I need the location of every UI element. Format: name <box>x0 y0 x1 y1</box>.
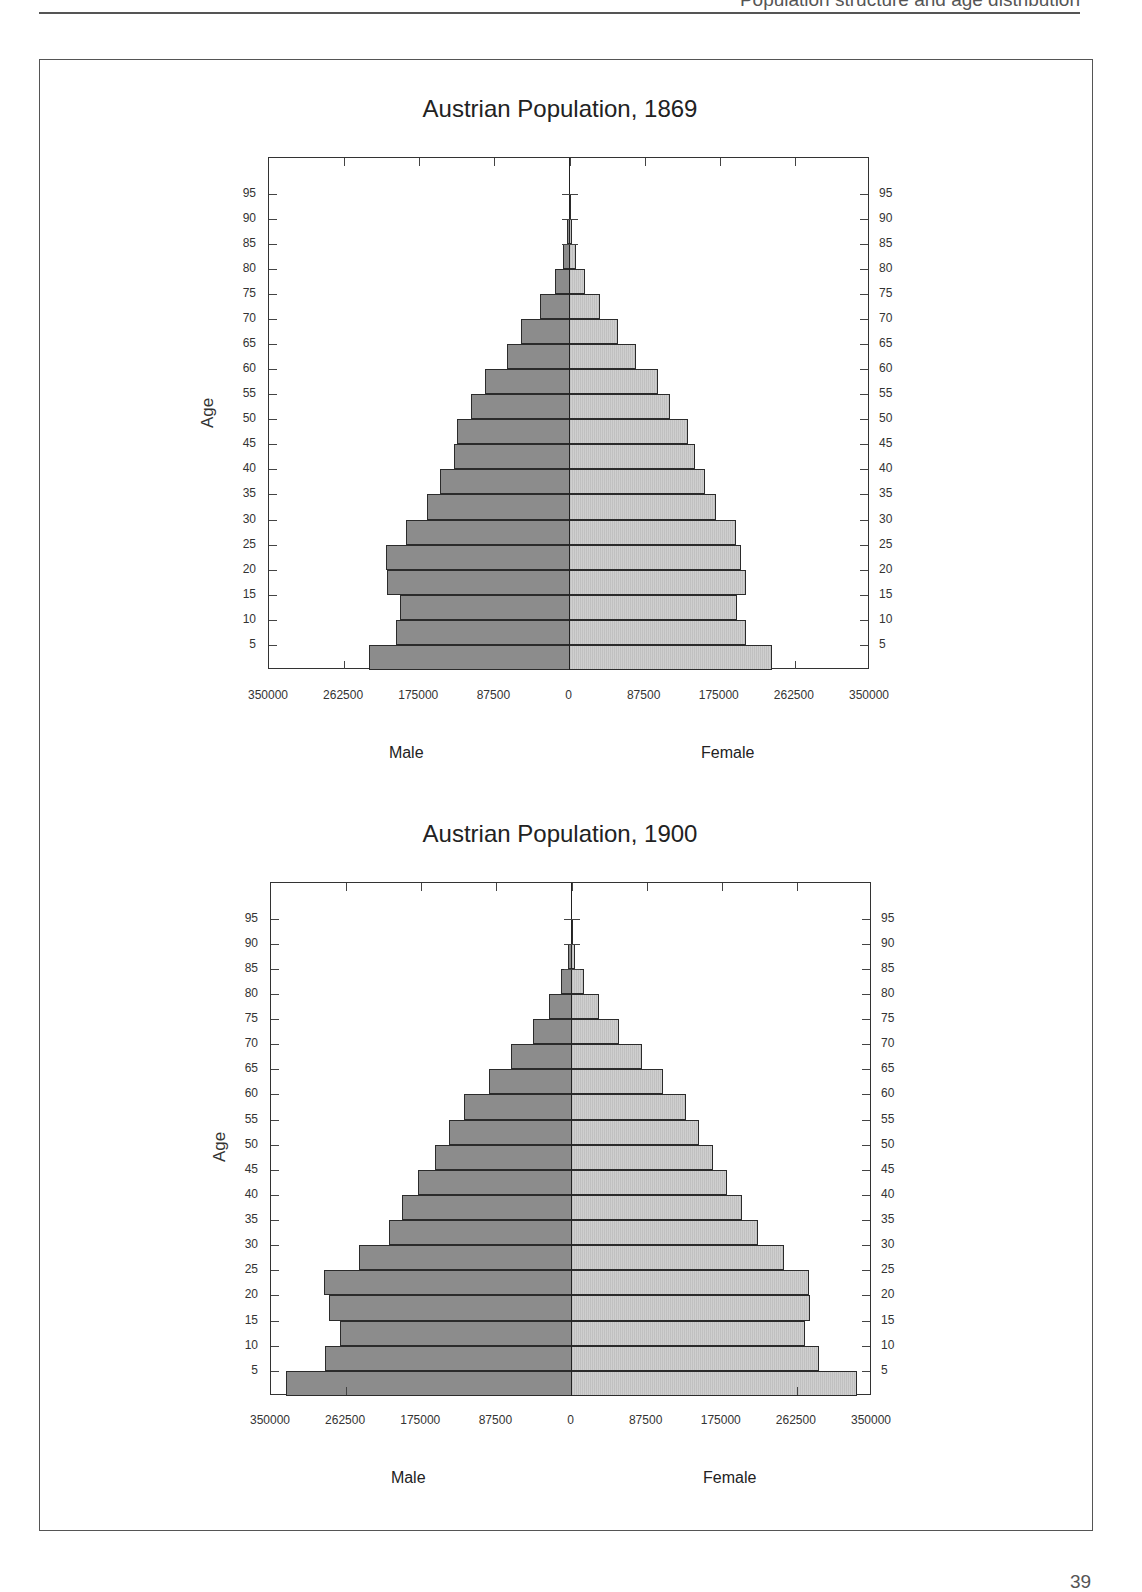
x-tick-label: 87500 <box>609 688 679 702</box>
bar-male-75-79 <box>555 269 570 294</box>
bar-female-70-74 <box>572 1019 619 1044</box>
bar-male-45-49 <box>435 1145 572 1170</box>
x-tick-top <box>722 883 723 891</box>
y-tick-label-right: 40 <box>879 461 909 475</box>
y-tick-label-right: 5 <box>881 1363 911 1377</box>
y-tick-label-right: 70 <box>881 1036 911 1050</box>
bar-male-70-74 <box>540 294 569 319</box>
bar-female-20-24 <box>570 545 742 570</box>
bar-male-25-29 <box>359 1245 572 1270</box>
y-tick-label-left: 50 <box>226 411 256 425</box>
bar-female-60-64 <box>570 344 637 369</box>
y-tick-label-right: 40 <box>881 1187 911 1201</box>
bar-male-80-84 <box>561 969 571 994</box>
bar-female-60-64 <box>572 1069 664 1094</box>
x-tick-top <box>720 158 721 166</box>
running-head: Population structure and age distributio… <box>560 0 1080 11</box>
x-tick-top <box>645 158 646 166</box>
bar-male-50-54 <box>471 394 570 419</box>
y-tick-left <box>271 1220 279 1221</box>
y-tick-right <box>860 219 868 220</box>
bar-female-45-49 <box>572 1145 714 1170</box>
y-tick-right <box>860 469 868 470</box>
page-number: 39 <box>1070 1571 1091 1592</box>
y-tick-label-left: 55 <box>228 1112 258 1126</box>
bar-male-55-59 <box>464 1094 571 1119</box>
x-tick-label: 175000 <box>385 1413 455 1427</box>
y-tick-label-right: 15 <box>881 1313 911 1327</box>
bar-female-75-79 <box>570 269 585 294</box>
bar-female-10-14 <box>570 595 737 620</box>
x-tick-label: 87500 <box>460 1413 530 1427</box>
x-tick-label: 262500 <box>308 688 378 702</box>
y-tick-right <box>860 570 868 571</box>
x-tick-label: 350000 <box>233 688 303 702</box>
y-tick-label-left: 25 <box>226 537 256 551</box>
x-tick-top <box>647 883 648 891</box>
y-tick-label-right: 55 <box>879 386 909 400</box>
y-tick-label-left: 90 <box>228 936 258 950</box>
y-tick-label-right: 30 <box>879 512 909 526</box>
y-tick-label-right: 25 <box>881 1262 911 1276</box>
x-tick-top <box>419 158 420 166</box>
y-tick-label-left: 85 <box>226 236 256 250</box>
y-tick-left <box>271 1346 279 1347</box>
bar-male-35-39 <box>440 469 570 494</box>
bar-female-15-19 <box>572 1295 811 1320</box>
y-tick-label-left: 20 <box>228 1287 258 1301</box>
y-tick-label-right: 45 <box>881 1162 911 1176</box>
center-tick <box>562 244 578 245</box>
y-tick-right <box>860 620 868 621</box>
bar-female-25-29 <box>572 1245 785 1270</box>
y-tick-label-right: 75 <box>881 1011 911 1025</box>
y-tick-right <box>862 1295 870 1296</box>
y-tick-right <box>860 194 868 195</box>
x-tick-top <box>795 158 796 166</box>
center-axis-line <box>571 883 572 1396</box>
y-tick-label-left: 35 <box>228 1212 258 1226</box>
y-tick-left <box>269 394 277 395</box>
bar-male-25-29 <box>406 520 570 545</box>
y-tick-left <box>269 520 277 521</box>
bar-female-50-54 <box>572 1120 699 1145</box>
y-tick-left <box>271 1295 279 1296</box>
bar-male-30-34 <box>427 494 570 519</box>
y-tick-right <box>860 419 868 420</box>
y-tick-left <box>269 194 277 195</box>
female-label: Female <box>668 744 788 762</box>
y-tick-label-left: 20 <box>226 562 256 576</box>
y-axis-title: Age <box>198 398 218 428</box>
x-tick-top <box>570 158 571 166</box>
x-tick-top <box>344 158 345 166</box>
bar-male-15-19 <box>387 570 570 595</box>
y-tick-left <box>269 645 277 646</box>
y-tick-label-right: 70 <box>879 311 909 325</box>
x-tick-bottom <box>797 1387 798 1395</box>
y-tick-label-right: 55 <box>881 1112 911 1126</box>
bar-female-40-44 <box>572 1170 727 1195</box>
y-tick-left <box>269 444 277 445</box>
y-tick-left <box>271 944 279 945</box>
y-tick-label-right: 35 <box>881 1212 911 1226</box>
y-tick-label-right: 85 <box>879 236 909 250</box>
male-label: Male <box>346 744 466 762</box>
x-tick-bottom <box>346 1387 347 1395</box>
y-tick-left <box>269 219 277 220</box>
y-tick-label-right: 60 <box>881 1086 911 1100</box>
center-tick <box>564 969 580 970</box>
y-tick-label-left: 80 <box>226 261 256 275</box>
y-tick-label-left: 65 <box>228 1061 258 1075</box>
y-tick-right <box>860 244 868 245</box>
y-tick-left <box>271 1094 279 1095</box>
y-tick-left <box>271 969 279 970</box>
y-tick-left <box>271 1145 279 1146</box>
y-tick-right <box>860 269 868 270</box>
y-tick-left <box>269 545 277 546</box>
female-label: Female <box>670 1469 790 1487</box>
x-tick-top <box>421 883 422 891</box>
y-tick-label-left: 15 <box>226 587 256 601</box>
y-tick-left <box>271 1321 279 1322</box>
bar-male-5-9 <box>325 1346 571 1371</box>
x-tick-label: 350000 <box>235 1413 305 1427</box>
x-tick-label: 350000 <box>836 1413 906 1427</box>
